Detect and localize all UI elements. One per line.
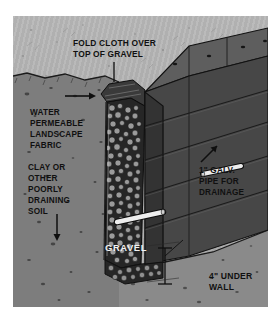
label-drainage: DRAINAGE bbox=[199, 188, 244, 198]
label-under-wall: WALL bbox=[209, 283, 234, 293]
soil-mass bbox=[13, 16, 268, 307]
figure-root: FOLD CLOTH OVER TOP OF GRAVEL WATER PERM… bbox=[0, 0, 280, 323]
label-pipe-for: PIPE FOR bbox=[199, 177, 239, 187]
illustration-photo: FOLD CLOTH OVER TOP OF GRAVEL WATER PERM… bbox=[13, 16, 268, 307]
label-clay-or: CLAY OR bbox=[28, 163, 65, 173]
label-gravel: GRAVEL bbox=[105, 243, 147, 253]
wall-end-face bbox=[145, 92, 163, 264]
label-fabric: FABRIC bbox=[30, 141, 62, 151]
label-under-depth: 4" UNDER bbox=[209, 272, 252, 282]
label-pipe-size: 1" GALV. bbox=[199, 166, 235, 176]
label-permeable: PERMEABLE bbox=[30, 119, 83, 129]
label-landscape: LANDSCAPE bbox=[30, 130, 83, 140]
label-water: WATER bbox=[30, 108, 60, 118]
label-draining: DRAINING bbox=[28, 196, 70, 206]
label-other: OTHER bbox=[28, 174, 58, 184]
label-poorly: POORLY bbox=[28, 185, 63, 195]
label-fold-cloth: FOLD CLOTH OVER TOP OF GRAVEL bbox=[73, 38, 156, 59]
label-soil: SOIL bbox=[28, 207, 48, 217]
